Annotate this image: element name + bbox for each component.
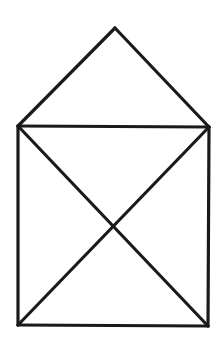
right-wall-edge (208, 127, 209, 326)
house-diagram (0, 0, 223, 344)
bottom-edge (18, 325, 208, 326)
background (0, 0, 223, 344)
top-edge (18, 126, 209, 127)
